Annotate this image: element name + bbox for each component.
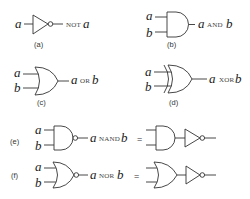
output-var2-label: b [226,16,233,31]
panel-not: a NOT a (a) [15,15,90,49]
output-var1-label: a [198,16,205,31]
operator-label: NAND [99,135,120,143]
panel-or: a b a OR b (c) [14,65,99,107]
logic-gates-diagram: a NOT a (a) a b a AND b (b) a b a OR b (… [0,0,250,199]
not-gate-icon [33,15,53,34]
and-gate-icon [167,12,189,37]
output-var2-label: b [235,71,242,86]
equals-sign: = [134,171,139,181]
or-gate-icon [35,67,58,95]
output-var1-label: a [90,167,97,182]
panel-and: a b a AND b (b) [146,8,233,49]
output-var1-label: a [209,71,216,86]
panel-caption: (e) [10,137,20,146]
output-var2-label: b [117,167,124,182]
output-var1-label: a [90,130,97,145]
and-then-not-equivalent [146,126,216,150]
equals-sign: = [137,134,142,144]
panel-caption: (c) [37,98,46,107]
xor-gate-icon [164,65,192,93]
panel-caption: (a) [34,40,44,49]
input-a-label: a [14,65,21,80]
input-a-label: a [146,8,153,23]
input-a-label: a [35,122,42,137]
operator-label: NOR [99,172,115,180]
input-a-label: a [35,159,42,174]
nand-gate-icon [54,126,78,150]
not-gate-icon [185,129,205,147]
panel-caption: (b) [167,40,177,49]
output-var2-label: b [121,130,128,145]
input-a-label: a [145,64,152,79]
input-b-label: b [145,79,152,94]
output-var1-label: a [71,72,78,87]
operator-label: XOR [219,76,235,84]
input-b-label: b [146,25,153,40]
operator-label: OR [80,77,90,85]
panel-nor: (f) a b a NOR b = [11,159,216,190]
nor-gate-icon [53,162,79,188]
operator-label: AND [207,21,223,29]
output-var2-label: b [92,72,99,87]
input-b-label: b [35,138,42,153]
panel-nand: (e) a b a NAND b = [10,122,216,153]
output-var-label: a [83,16,90,31]
or-then-not-equivalent [146,162,216,188]
input-b-label: b [14,80,21,95]
panel-caption: (f) [11,171,19,180]
operator-label: NOT [66,21,82,29]
panel-caption: (d) [169,98,179,107]
not-gate-icon [186,166,205,184]
input-a-label: a [15,16,22,31]
panel-xor: a b a XOR b (d) [145,64,242,107]
or-gate-icon [154,162,177,188]
and-gate-icon [156,126,175,150]
input-b-label: b [35,175,42,190]
